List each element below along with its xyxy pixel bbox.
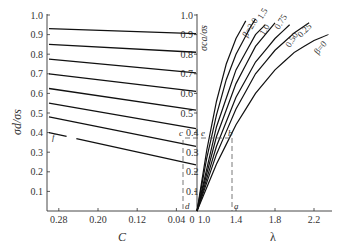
curve-label: β=0	[312, 39, 329, 57]
right-y-label: σca/σs	[198, 25, 209, 51]
curve-label: 1.5	[255, 6, 270, 21]
middle-y-tick-label: 0.9	[181, 29, 194, 40]
left-y-tick-label: 0.2	[31, 166, 44, 177]
lambda-tick-label: 2.2	[308, 214, 321, 225]
left-y-tick-label: 0.7	[31, 68, 44, 79]
point-a: a	[234, 201, 239, 211]
left-y-tick-label: 0.3	[31, 147, 44, 158]
left-line	[49, 117, 196, 146]
left-y-tick-label: 0.8	[31, 49, 44, 60]
right-curve	[197, 25, 290, 211]
point-b: b	[228, 128, 233, 138]
zero-label: 0	[190, 214, 195, 225]
left-y-tick-label: 1.0	[31, 10, 44, 21]
lambda-tick-label: 1.8	[269, 214, 282, 225]
right-x-label: λ	[270, 230, 276, 244]
middle-y-tick-label: 0.1	[186, 186, 199, 197]
right-curve	[197, 35, 329, 211]
left-line	[49, 44, 196, 52]
right-series: β=2.01.51.00.750.500.25β=0	[197, 6, 329, 211]
middle-y-tick-label: 0.8	[181, 49, 194, 60]
point-d: d	[185, 201, 190, 211]
left-y-tick-label: 0.1	[31, 186, 44, 197]
c-tick-label: 0.20	[89, 214, 107, 225]
lambda-tick-label: 1.0	[198, 214, 211, 225]
point-e: e	[201, 128, 205, 138]
middle-y-tick-label: 0.2	[186, 166, 199, 177]
left-y-label: σd/σs	[10, 109, 24, 135]
left-y-tick-label: 0.5	[31, 108, 44, 119]
left-line	[49, 133, 196, 165]
left-series	[49, 29, 196, 165]
c-tick-label: 0.12	[128, 214, 146, 225]
point-c: c	[179, 128, 183, 138]
left-y-tick-label: 0.4	[31, 127, 44, 138]
middle-y-tick-label: 0.4	[186, 127, 199, 138]
left-x-label: C	[118, 230, 127, 244]
lambda-tick-label: 1.4	[230, 214, 243, 225]
middle-y-tick-label: 0.3	[186, 147, 199, 158]
c-tick-label: 0.28	[50, 214, 68, 225]
chart: 0.10.20.30.40.50.60.70.80.91.0 0.10.20.3…	[0, 0, 350, 252]
middle-y-tick-label: 1.0	[181, 10, 194, 21]
left-line	[49, 59, 196, 73]
left-line	[49, 74, 196, 92]
left-y-tick-label: 0.9	[31, 29, 44, 40]
c-tick-label: 0.04	[168, 214, 186, 225]
left-line	[49, 29, 196, 34]
middle-y-tick-label: 0.7	[181, 68, 194, 79]
left-y-tick-label: 0.6	[31, 88, 44, 99]
